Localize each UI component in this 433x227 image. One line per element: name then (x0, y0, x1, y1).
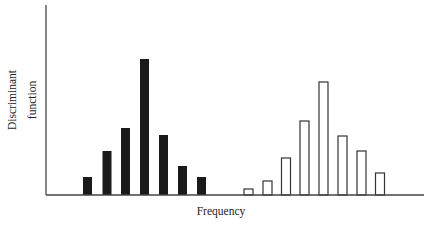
bar (178, 166, 187, 195)
bar (282, 158, 291, 195)
bar (376, 173, 385, 195)
y-axis-label-line2: function (26, 81, 38, 119)
bar (319, 82, 328, 195)
bar (244, 189, 253, 195)
bar (300, 121, 309, 195)
x-axis-label: Frequency (197, 205, 246, 217)
bar (263, 181, 272, 195)
bar (103, 151, 112, 195)
series-outline-bars (244, 82, 385, 195)
bar-chart (0, 0, 433, 227)
bar (159, 135, 168, 195)
bar (121, 128, 130, 195)
bar (197, 177, 206, 195)
y-axis-label-line1: Discriminant (6, 70, 18, 130)
series-filled-bars (83, 59, 206, 195)
bar (357, 151, 366, 195)
bar (140, 59, 149, 195)
bar (83, 177, 92, 195)
bar (338, 136, 347, 195)
